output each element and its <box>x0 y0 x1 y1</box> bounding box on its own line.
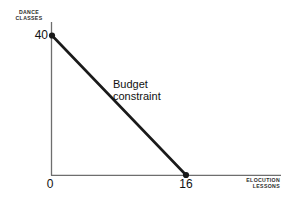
x-axis-title: ELOCUTIONLESSONS <box>226 178 280 190</box>
x-tick-label-0: 0 <box>40 178 60 191</box>
y-axis-title: DANCECLASSES <box>8 10 50 22</box>
data-point-vertical-intercept <box>49 32 55 38</box>
y-axis-title-line-2: CLASSES <box>16 15 43 21</box>
annotation-line-1: Budget <box>113 78 148 90</box>
x-axis-title-line-2: LESSONS <box>253 183 280 189</box>
x-tick-label-16: 16 <box>174 178 198 191</box>
budget-constraint-annotation: Budgetconstraint <box>113 78 161 103</box>
annotation-line-2: constraint <box>113 90 161 102</box>
budget-constraint-chart: DANCECLASSES ELOCUTIONLESSONS 40 0 16 Bu… <box>0 0 297 209</box>
budget-constraint-line <box>52 36 186 176</box>
y-tick-label-40: 40 <box>22 29 48 42</box>
